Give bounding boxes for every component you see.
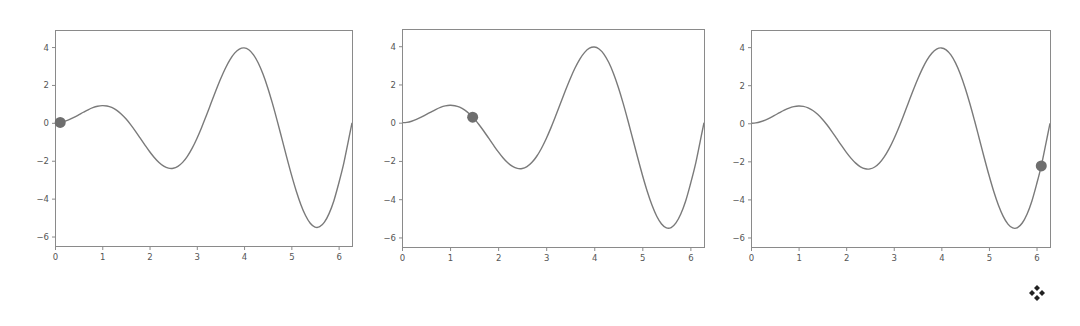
x-tick-label: 3: [195, 252, 200, 262]
point-marker: [467, 112, 478, 123]
x-tick-label: 3: [892, 253, 897, 263]
y-tick-label: 0: [740, 119, 745, 129]
y-tick-label: −4: [732, 195, 745, 205]
y-tick-label: −4: [383, 195, 396, 205]
x-tick-label: 0: [749, 253, 754, 263]
x-tick-label: 6: [336, 252, 341, 262]
y-tick-label: −6: [732, 233, 745, 243]
y-tick-label: 0: [391, 118, 396, 128]
x-tick-label: 2: [496, 253, 501, 263]
axes-frame: [403, 30, 705, 248]
four-diamonds-icon[interactable]: [1028, 284, 1046, 302]
y-tick-label: 2: [740, 81, 745, 91]
y-tick-label: 4: [391, 42, 396, 52]
x-tick-label: 4: [939, 253, 944, 263]
axes-frame: [56, 31, 353, 247]
x-tick-label: 2: [147, 252, 152, 262]
function-curve: [751, 48, 1050, 228]
y-tick-label: −6: [383, 233, 396, 243]
x-tick-label: 1: [100, 252, 105, 262]
x-tick-label: 4: [592, 253, 597, 263]
y-tick-label: 2: [391, 80, 396, 90]
x-tick-label: 0: [53, 252, 58, 262]
function-curve: [55, 48, 352, 228]
y-tick-label: −6: [36, 232, 49, 242]
x-tick-label: 5: [289, 252, 294, 262]
x-tick-label: 5: [640, 253, 645, 263]
y-tick-label: −2: [36, 156, 49, 166]
point-marker: [55, 117, 66, 128]
y-tick-label: −2: [383, 156, 396, 166]
x-tick-label: 4: [242, 252, 247, 262]
x-tick-label: 1: [796, 253, 801, 263]
function-curve: [402, 47, 704, 228]
x-tick-label: 6: [688, 253, 693, 263]
y-tick-label: 4: [740, 43, 745, 53]
y-tick-label: 4: [44, 43, 49, 53]
axes-frame: [752, 31, 1051, 248]
x-tick-label: 0: [400, 253, 405, 263]
x-tick-label: 3: [544, 253, 549, 263]
point-marker: [1036, 160, 1047, 171]
x-tick-label: 5: [987, 253, 992, 263]
x-tick-label: 2: [844, 253, 849, 263]
y-tick-label: 2: [44, 80, 49, 90]
x-tick-label: 1: [448, 253, 453, 263]
x-tick-label: 6: [1034, 253, 1039, 263]
y-tick-label: −4: [36, 194, 49, 204]
y-tick-label: −2: [732, 157, 745, 167]
y-tick-label: 0: [44, 118, 49, 128]
